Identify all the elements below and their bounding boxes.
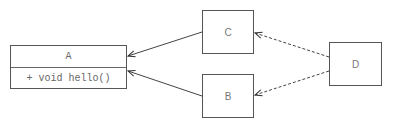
class-b[interactable]: B <box>202 74 254 118</box>
class-c[interactable]: C <box>202 10 254 54</box>
class-a-method: + void hello() <box>11 68 126 89</box>
diagram-canvas: A + void hello() C B D <box>0 0 397 125</box>
edge-d-to-b <box>255 71 329 95</box>
class-d[interactable]: D <box>329 42 382 86</box>
edge-c-to-a <box>128 32 202 56</box>
class-a-name: A <box>11 46 126 68</box>
edge-d-to-c <box>255 33 329 57</box>
class-b-name: B <box>225 91 232 102</box>
edge-b-to-a <box>128 71 202 96</box>
class-d-name: D <box>352 59 359 70</box>
class-c-name: C <box>224 27 231 38</box>
class-a[interactable]: A + void hello() <box>10 45 127 89</box>
